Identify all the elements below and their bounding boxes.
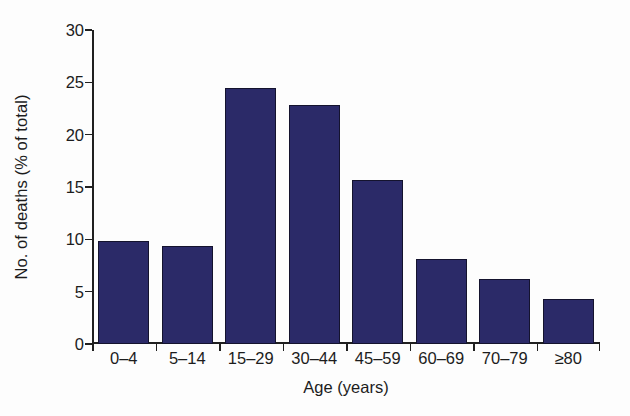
x-axis-tick-labels: 0–45–1415–2930–4445–5960–6970–79≥80 <box>92 348 600 372</box>
x-axis-tick-label: 45–59 <box>355 348 401 369</box>
y-axis-tick-label: 20 <box>66 126 84 143</box>
bar <box>98 241 149 344</box>
bar <box>416 259 467 344</box>
y-axis-tick-labels: 051015202530 <box>44 30 84 344</box>
y-axis-tick-mark <box>85 134 92 136</box>
bar <box>162 246 213 344</box>
bar <box>352 180 403 344</box>
y-axis-tick-label: 15 <box>66 179 84 196</box>
plot-area <box>92 30 600 344</box>
y-axis-tick-mark <box>85 343 92 345</box>
x-axis-tick-label: 70–79 <box>482 348 528 369</box>
x-axis-tick-label: ≥80 <box>555 348 582 369</box>
y-axis-tick-mark <box>85 29 92 31</box>
bar <box>225 88 276 344</box>
x-axis-title: Age (years) <box>92 378 600 397</box>
bar-chart-figure: No. of deaths (% of total) 051015202530 … <box>0 0 630 416</box>
x-axis-tick-label: 60–69 <box>418 348 464 369</box>
y-axis-tick-label: 30 <box>66 22 84 39</box>
y-axis-tick-label: 25 <box>66 74 84 91</box>
y-axis-tick-label: 0 <box>75 336 84 353</box>
y-axis-tick-mark <box>85 239 92 241</box>
bar-series <box>92 30 600 344</box>
x-axis-tick-label: 0–4 <box>110 348 138 369</box>
y-axis-tick-label: 5 <box>75 283 84 300</box>
x-axis-tick-label: 30–44 <box>291 348 337 369</box>
y-axis-title: No. of deaths (% of total) <box>6 30 36 344</box>
bar <box>543 299 594 344</box>
bar <box>479 279 530 344</box>
y-axis-tick-mark <box>85 291 92 293</box>
y-axis-tick-mark <box>85 82 92 84</box>
x-axis-tick-label: 15–29 <box>228 348 274 369</box>
bar <box>289 105 340 344</box>
y-axis-tick-mark <box>85 186 92 188</box>
x-axis-tick-label: 5–14 <box>169 348 206 369</box>
y-axis-tick-label: 10 <box>66 231 84 248</box>
